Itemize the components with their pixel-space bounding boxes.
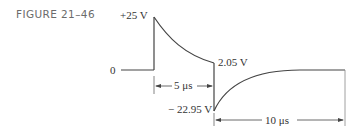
- recovery-time-label: 10 μs: [265, 114, 289, 126]
- negative-peak-label: − 22.95 V: [168, 103, 212, 115]
- arrowhead-left-icon: [155, 84, 161, 88]
- pulse-width-label: 5 μs: [174, 79, 192, 91]
- decay-curve: [154, 17, 214, 63]
- recovery-curve: [214, 70, 345, 111]
- peak-voltage-label: +25 V: [120, 9, 148, 21]
- waveform-diagram: +25 V 0 2.05 V − 22.95 V 5 μs 10 μs: [0, 0, 360, 132]
- arrowhead-right-icon: [207, 84, 213, 88]
- arrowhead-left-icon: [215, 118, 221, 122]
- arrowhead-right-icon: [338, 118, 344, 122]
- zero-label: 0: [110, 64, 116, 76]
- end-decay-voltage-label: 2.05 V: [218, 56, 248, 68]
